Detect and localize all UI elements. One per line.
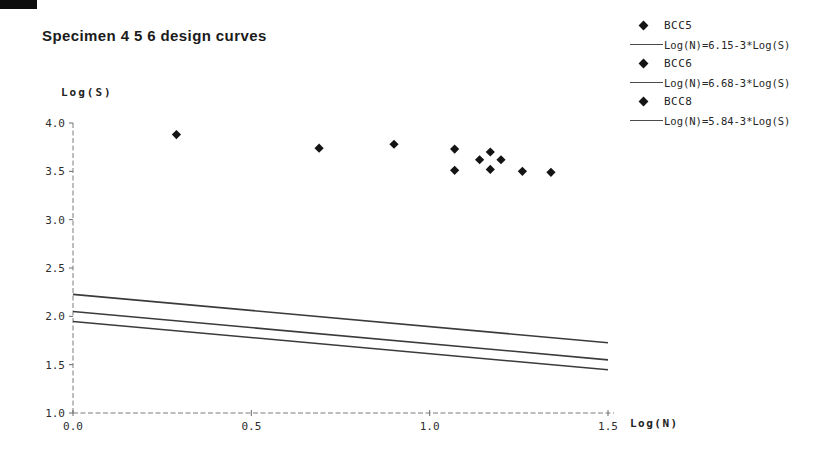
- x-tick-label: 1.5: [598, 420, 618, 433]
- diamond-marker-icon: [630, 60, 664, 67]
- scatter-point: [475, 155, 484, 164]
- legend-entry-bcc8: BCC8: [630, 92, 818, 111]
- design-curve-line-bcc8: [73, 321, 608, 369]
- scatter-point: [389, 140, 398, 149]
- diamond-marker-icon: [630, 98, 664, 105]
- chart-page: { "page": { "background": "#ffffff" }, "…: [0, 0, 818, 464]
- x-tick-label: 1.0: [420, 420, 440, 433]
- scatter-point: [450, 166, 459, 175]
- legend-entry-bcc6: BCC6: [630, 54, 818, 73]
- scatter-point: [546, 168, 555, 177]
- line-swatch-icon: [630, 82, 664, 83]
- diamond-marker-icon: [630, 22, 664, 29]
- line-swatch-icon: [630, 120, 664, 121]
- legend-label: Log(N)=5.84-3*Log(S): [664, 115, 790, 127]
- scatter-point: [486, 165, 495, 174]
- y-tick-label: 3.0: [45, 214, 65, 227]
- y-tick-label: 1.5: [45, 359, 65, 372]
- legend-entry-bcc5-equation: Log(N)=6.15-3*Log(S): [630, 35, 818, 54]
- y-tick-label: 4.0: [45, 117, 65, 130]
- scatter-point: [172, 130, 181, 139]
- legend-label: Log(N)=6.15-3*Log(S): [664, 39, 790, 51]
- line-swatch-icon: [630, 44, 664, 45]
- legend-label: BCC6: [664, 57, 693, 70]
- scatter-point: [518, 167, 527, 176]
- y-tick-label: 2.0: [45, 310, 65, 323]
- legend-label: Log(N)=6.68-3*Log(S): [664, 77, 790, 89]
- scatter-point: [496, 155, 505, 164]
- legend-label: BCC8: [664, 95, 693, 108]
- scatter-point: [450, 145, 459, 154]
- x-tick-label: 0.0: [63, 420, 83, 433]
- legend-label: BCC5: [664, 19, 693, 32]
- legend-entry-bcc5: BCC5: [630, 16, 818, 35]
- scatter-point: [486, 147, 495, 156]
- legend-entry-bcc6-equation: Log(N)=6.68-3*Log(S): [630, 73, 818, 92]
- legend-entry-bcc8-equation: Log(N)=5.84-3*Log(S): [630, 111, 818, 130]
- chart-legend: BCC5 Log(N)=6.15-3*Log(S) BCC6 Log(N)=6.…: [630, 16, 818, 130]
- y-tick-label: 3.5: [45, 165, 65, 178]
- y-tick-label: 2.5: [45, 262, 65, 275]
- scatter-point: [315, 144, 324, 153]
- y-tick-label: 1.0: [45, 407, 65, 420]
- x-tick-label: 0.5: [241, 420, 261, 433]
